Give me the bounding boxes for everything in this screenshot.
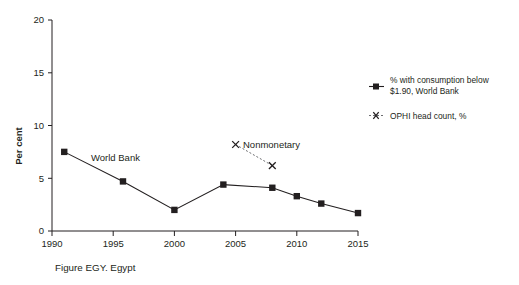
legend-label-world-bank-line2: $1.90, World Bank [390,86,460,96]
data-point-marker [220,181,226,187]
y-tick-label-15: 15 [33,67,44,78]
x-axis-tick-labels: 1990 1995 2000 2005 2010 2015 [41,238,368,249]
y-axis-ticks [48,20,52,231]
data-point-marker [120,178,126,184]
figure-container: 0 5 10 15 20 Per cent 1990 1995 2000 200… [0,0,519,285]
data-point-marker [355,210,361,216]
x-tick-label-1990: 1990 [41,238,62,249]
data-point-marker [269,162,276,169]
data-point-marker [269,185,275,191]
y-axis-title: Per cent [13,126,24,164]
data-point-marker [232,141,239,148]
legend: % with consumption below $1.90, World Ba… [369,75,490,121]
x-tick-label-2010: 2010 [286,238,307,249]
y-tick-label-5: 5 [39,173,44,184]
x-tick-label-2000: 2000 [164,238,185,249]
legend-entry-world-bank[interactable]: % with consumption below $1.90, World Ba… [369,75,490,96]
data-point-marker [171,207,177,213]
figure-caption: Figure EGY. Egypt [55,262,136,273]
x-tick-label-2005: 2005 [225,238,246,249]
x-axis-ticks [52,231,358,236]
data-point-marker [61,149,67,155]
annotation-nonmonetary: Nonmonetary [243,139,300,150]
x-tick-label-2015: 2015 [347,238,368,249]
y-axis-tick-labels: 0 5 10 15 20 [33,14,44,236]
chart-canvas: 0 5 10 15 20 Per cent 1990 1995 2000 200… [0,0,519,285]
y-tick-label-10: 10 [33,120,44,131]
y-tick-label-20: 20 [33,14,44,25]
annotation-world-bank: World Bank [91,152,140,163]
legend-label-world-bank-line1: % with consumption below [390,75,490,85]
data-point-marker [294,193,300,199]
legend-entry-nonmonetary[interactable]: OPHI head count, % [369,111,467,121]
y-tick-label-0: 0 [39,225,44,236]
data-point-marker [318,200,324,206]
legend-square-marker-icon [373,84,379,90]
legend-label-nonmonetary: OPHI head count, % [390,111,467,121]
x-tick-label-1995: 1995 [103,238,124,249]
